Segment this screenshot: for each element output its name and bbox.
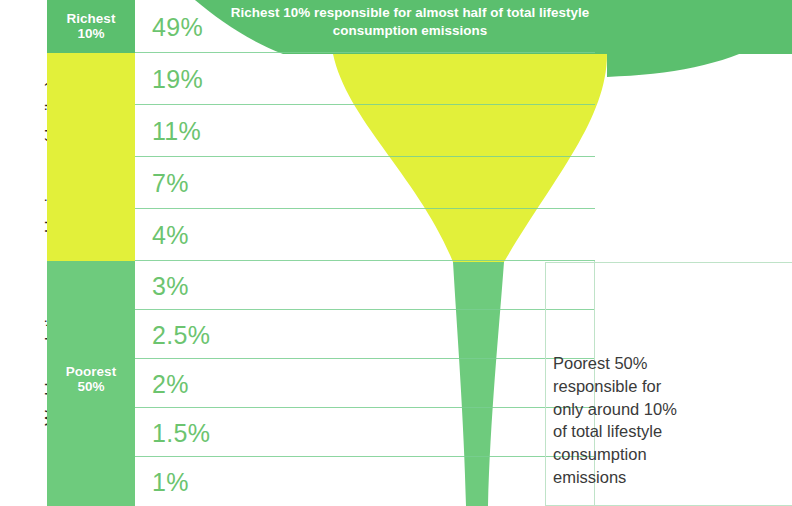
table-row: 19%: [135, 53, 595, 105]
richest-annotation: Richest 10% responsible for almost half …: [195, 4, 625, 40]
decile-value: 1%: [152, 467, 189, 496]
decile-strip-middle: [47, 53, 135, 261]
table-row: 2%: [135, 359, 595, 408]
table-row: 1%: [135, 457, 595, 506]
decile-value: 1.5%: [152, 418, 210, 447]
table-row: 11%: [135, 105, 595, 157]
poorest-group-label-line1: Poorest: [66, 364, 116, 379]
decile-value: 3%: [152, 271, 189, 300]
richest-group-label: Richest 10%: [47, 11, 135, 41]
decile-value: 7%: [152, 169, 189, 198]
poorest-annotation: Poorest 50% responsible for only around …: [553, 352, 758, 489]
emissions-decile-chart: World population arranged by income (dec…: [0, 0, 792, 506]
table-row: 1.5%: [135, 408, 595, 457]
table-row: 3%: [135, 261, 595, 310]
table-row: 2.5%: [135, 310, 595, 359]
table-row: 7%: [135, 157, 595, 209]
decile-value: 11%: [152, 117, 201, 146]
poorest-group-label-line2: 50%: [77, 379, 104, 394]
richest-group-label-line1: Richest: [67, 11, 116, 26]
table-row: 4%: [135, 209, 595, 261]
decile-value: 19%: [152, 65, 203, 94]
poorest-group-label: Poorest 50%: [47, 364, 135, 394]
decile-value: 4%: [152, 221, 189, 250]
decile-value: 2%: [152, 369, 189, 398]
richest-group-label-line2: 10%: [77, 26, 104, 41]
decile-value: 2.5%: [152, 320, 210, 349]
